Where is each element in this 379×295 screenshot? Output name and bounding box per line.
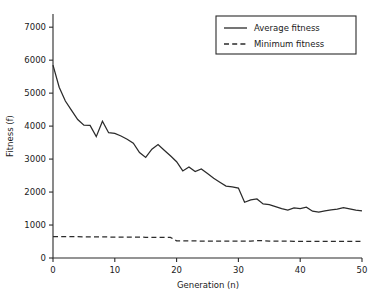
x-tick-label: 0 xyxy=(50,265,55,275)
y-tick-label: 5000 xyxy=(24,88,46,98)
y-tick-label: 6000 xyxy=(24,55,46,65)
x-tick-label: 20 xyxy=(171,265,182,275)
x-axis-title: Generation (n) xyxy=(177,280,239,290)
x-tick-label: 30 xyxy=(233,265,244,275)
x-tick-label: 40 xyxy=(295,265,306,275)
y-tick-label: 7000 xyxy=(24,22,46,32)
x-tick-label: 50 xyxy=(357,265,368,275)
y-axis-title: Fitness (f) xyxy=(5,115,15,157)
y-tick-label: 0 xyxy=(41,253,46,263)
y-tick-label: 2000 xyxy=(24,187,46,197)
legend-label-average-fitness: Average fitness xyxy=(254,23,320,33)
chart-legend: Average fitness Minimum fitness xyxy=(216,16,356,54)
legend-label-minimum-fitness: Minimum fitness xyxy=(254,39,325,49)
y-tick-label: 1000 xyxy=(24,220,46,230)
chart-figure: 01000200030004000500060007000 0102030405… xyxy=(0,0,379,295)
x-tick-label: 10 xyxy=(109,265,120,275)
y-tick-label: 3000 xyxy=(24,154,46,164)
y-tick-label: 4000 xyxy=(24,121,46,131)
fitness-line-chart: 01000200030004000500060007000 0102030405… xyxy=(0,0,379,295)
